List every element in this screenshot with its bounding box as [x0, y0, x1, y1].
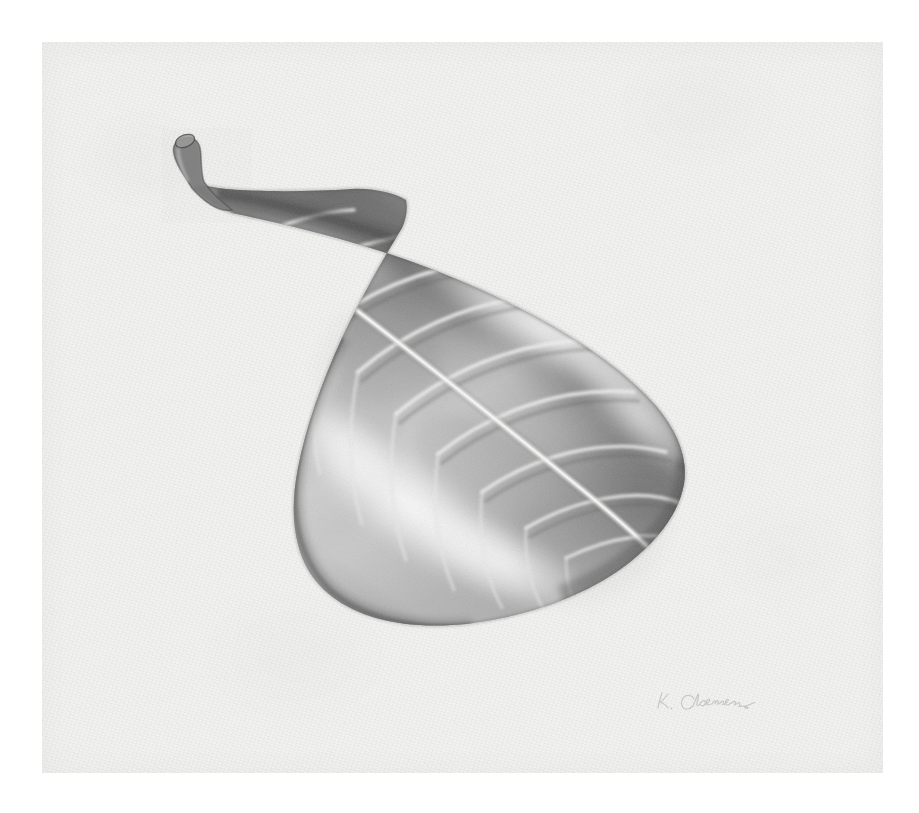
paper-sheet: K. Coleman [42, 42, 883, 773]
lateral-vein [281, 282, 288, 404]
leaf-stem [162, 128, 252, 223]
artboard: K. Coleman [0, 0, 919, 813]
leaf-illustration [42, 42, 883, 773]
lateral-vein [254, 238, 264, 334]
leaf-drawing [42, 42, 883, 773]
vein-11 [636, 596, 678, 604]
